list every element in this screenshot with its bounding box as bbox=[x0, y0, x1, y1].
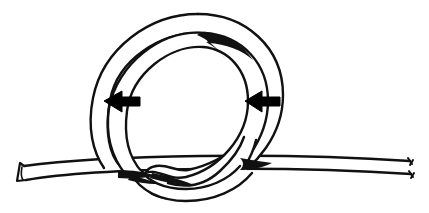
knot-illustration bbox=[0, 0, 429, 213]
knot-diagram-figure: Rope loop knot diagram Line drawing of a… bbox=[0, 0, 429, 213]
